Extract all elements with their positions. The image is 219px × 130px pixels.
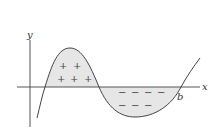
plus-sign: +	[70, 73, 78, 84]
minus-sign: −	[131, 87, 139, 98]
plus-sign: +	[59, 60, 67, 71]
y-axis-label: y	[26, 29, 33, 40]
plus-sign: +	[84, 73, 92, 84]
plus-sign: +	[57, 73, 65, 84]
minus-sign: −	[118, 87, 126, 98]
minus-sign: −	[157, 87, 165, 98]
negative-region-fill	[99, 87, 181, 117]
minus-sign: −	[144, 87, 152, 98]
x-axis-label: x	[202, 81, 208, 92]
b-point-label: b	[177, 91, 183, 102]
minus-sign: −	[118, 100, 126, 111]
minus-sign: −	[144, 100, 152, 111]
plus-sign: +	[73, 60, 81, 71]
area-diagram: y x b + + + + + − − − − − − −	[0, 0, 219, 130]
minus-sign: −	[131, 100, 139, 111]
